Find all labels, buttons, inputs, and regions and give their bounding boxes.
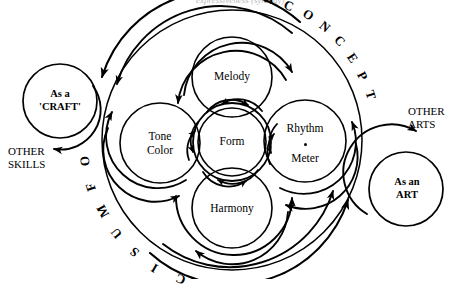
satellite-circle-art (369, 152, 443, 226)
node-circle-harmony (192, 168, 272, 248)
outer-arc-lower-right-2 (163, 191, 333, 267)
node-circle-form-inner (198, 108, 266, 176)
arrow-art-to-other-arts (343, 124, 416, 214)
satellite-circle-craft (23, 64, 97, 138)
outer-boundary-circle (102, 10, 362, 270)
lobe-arc-tonecolor-up (106, 112, 186, 188)
node-circle-rhythm-meter (264, 100, 346, 182)
rhythm-meter-separator-dot (304, 143, 307, 146)
lobe-arc-melody-left (178, 51, 286, 103)
node-circle-melody (192, 37, 272, 117)
outer-arc-lower-right-1 (150, 200, 348, 279)
form-junction-arrow-right-down (269, 124, 277, 153)
form-junction-arrow-bottom-left (218, 170, 258, 184)
node-circle-form-outer (193, 103, 271, 181)
